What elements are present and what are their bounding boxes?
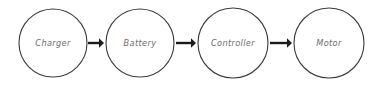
arrowhead-icon (99, 38, 104, 48)
node-charger[interactable]: Charger (19, 9, 87, 77)
edge-charger-to-battery (88, 38, 104, 48)
edge-battery-to-controller (176, 38, 196, 48)
flow-diagram: Charger Battery Controller Motor (0, 0, 385, 86)
node-controller[interactable]: Controller (198, 8, 268, 78)
node-controller-label: Controller (211, 38, 255, 48)
node-battery[interactable]: Battery (106, 9, 174, 77)
arrowhead-icon (191, 38, 196, 48)
edge-controller-to-motor (270, 38, 292, 48)
node-battery-label: Battery (124, 38, 157, 48)
node-motor[interactable]: Motor (294, 8, 364, 78)
arrowhead-icon (287, 38, 292, 48)
diagram-canvas: Charger Battery Controller Motor (0, 0, 385, 86)
node-motor-label: Motor (316, 38, 342, 48)
node-charger-label: Charger (35, 38, 71, 48)
